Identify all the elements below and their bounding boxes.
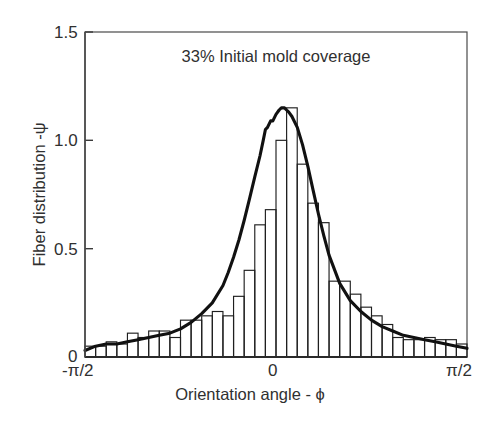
fiber-orientation-figure: 1.5 1.0 0.5 0 -π/2 0 π/2 Fiber distribut… <box>0 0 500 421</box>
y-axis-title: Fiber distribution -ψ <box>30 80 49 310</box>
x-tick-label-neg-half-pi: -π/2 <box>62 361 94 381</box>
x-tick-label-half-pi: π/2 <box>446 361 472 381</box>
x-tick-label-zero: 0 <box>268 361 277 381</box>
y-tick-label-1-0: 1.0 <box>54 131 78 151</box>
y-tick-label-1-5: 1.5 <box>54 23 78 43</box>
y-tick-label-0-5: 0.5 <box>54 240 78 260</box>
chart-annotation: 33% Initial mold coverage <box>85 47 467 66</box>
x-axis-title: Orientation angle - ϕ <box>0 385 500 404</box>
